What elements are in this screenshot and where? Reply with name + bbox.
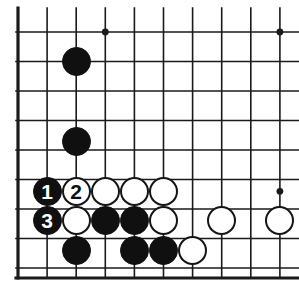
numbered-stone-1[interactable]: 1 (33, 177, 62, 206)
white-stone[interactable] (62, 206, 91, 235)
star-point (277, 29, 284, 36)
stone-move-number: 1 (41, 181, 53, 202)
stone-move-number: 3 (41, 210, 53, 231)
black-stone[interactable] (62, 47, 91, 76)
white-stone[interactable] (91, 177, 120, 206)
white-stone[interactable] (178, 236, 207, 265)
black-stone[interactable] (91, 206, 120, 235)
black-stone[interactable] (62, 127, 91, 156)
white-stone[interactable] (120, 177, 149, 206)
black-stone[interactable] (120, 206, 149, 235)
white-stone[interactable] (149, 177, 178, 206)
black-stone[interactable] (62, 236, 91, 265)
go-board-figure: 123 (0, 0, 299, 292)
star-point (102, 29, 109, 36)
stone-move-number: 2 (70, 181, 82, 202)
black-stone[interactable] (149, 236, 178, 265)
numbered-stone-3[interactable]: 3 (33, 206, 62, 235)
numbered-stone-2[interactable]: 2 (62, 177, 91, 206)
black-stone[interactable] (120, 236, 149, 265)
star-point (277, 188, 284, 195)
